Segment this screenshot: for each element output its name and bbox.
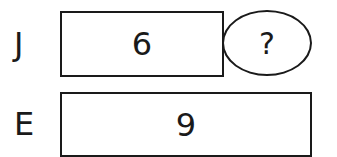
bar-e: 9 xyxy=(60,92,312,157)
unknown-value: ? xyxy=(259,26,275,61)
unknown-oval: ? xyxy=(222,10,312,76)
row-label-j: J xyxy=(14,28,23,60)
bar-j-value: 6 xyxy=(132,25,152,63)
row-label-e: E xyxy=(14,108,34,140)
bar-e-value: 9 xyxy=(176,106,196,144)
bar-j: 6 xyxy=(60,11,224,77)
